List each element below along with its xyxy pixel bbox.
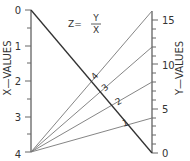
formula: Z= Y X <box>68 13 101 35</box>
right-axis-ticks <box>152 20 158 153</box>
left-axis-tick-labels: 0 1 2 3 4 <box>15 5 21 160</box>
left-axis-ticks <box>25 10 31 152</box>
formula-denominator: X <box>93 25 99 35</box>
formula-numerator: Y <box>92 13 99 23</box>
left-tick-4: 4 <box>15 149 21 160</box>
left-tick-1: 1 <box>15 41 21 52</box>
right-tick-15: 15 <box>162 15 175 26</box>
z-line-3 <box>31 47 152 152</box>
right-tick-5: 5 <box>162 104 168 115</box>
right-axis-title: Y—VALUES <box>174 41 185 96</box>
nomogram-chart: 0 1 2 3 4 X—VALUES 0 5 10 15 Y—VALUES <box>0 0 190 161</box>
right-axis-tick-labels: 0 5 10 15 <box>162 15 175 159</box>
z-label-3: 3 <box>100 82 111 93</box>
z-label-1: 1 <box>121 118 129 129</box>
right-tick-0: 0 <box>162 148 168 159</box>
left-axis-title: X—VALUES <box>2 41 13 96</box>
left-tick-0: 0 <box>15 5 21 16</box>
z-line-labels: 1 2 3 4 <box>89 70 129 128</box>
z-line-2 <box>31 82 152 152</box>
right-tick-10: 10 <box>162 60 175 71</box>
z-label-2: 2 <box>114 96 124 108</box>
formula-lhs: Z= <box>68 19 82 29</box>
index-line <box>31 10 152 153</box>
z-line-1 <box>31 118 152 152</box>
left-tick-2: 2 <box>15 76 21 87</box>
left-tick-3: 3 <box>15 112 21 123</box>
